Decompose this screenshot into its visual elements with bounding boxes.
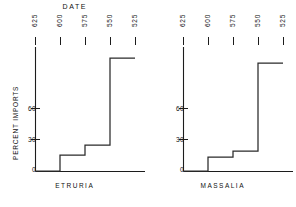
- plot-area-etruria: [0, 0, 148, 207]
- figure-two-panel-step-chart: DATE 625 600 575 550 525 PERCENT IMPORTS…: [0, 0, 296, 207]
- panel-caption-etruria: ETRURIA: [0, 182, 148, 189]
- panel-massalia: 625 600 575 550 525 60 30 0 MASSALIA: [148, 0, 296, 207]
- panel-etruria: DATE 625 600 575 550 525 PERCENT IMPORTS…: [0, 0, 148, 207]
- panel-caption-massalia: MASSALIA: [148, 182, 296, 189]
- step-curve-etruria: [36, 58, 136, 171]
- step-curve-massalia: [184, 63, 284, 171]
- plot-area-massalia: [148, 0, 296, 207]
